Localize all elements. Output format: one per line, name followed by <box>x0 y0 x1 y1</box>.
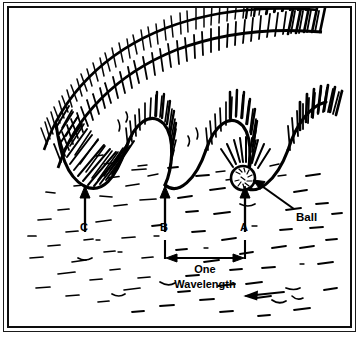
wave-diagram-figure: C B A Ball One Wavelength <box>0 0 361 339</box>
label-trough-b: B <box>160 222 168 233</box>
water-texture-dashes <box>28 167 342 316</box>
wavelength-dimension-arrow <box>166 254 244 262</box>
label-trough-c: C <box>80 222 88 233</box>
ball-callout-arrow <box>253 180 294 209</box>
label-ball: Ball <box>296 212 317 224</box>
ball-shape <box>231 166 255 190</box>
label-trough-a: A <box>240 222 248 233</box>
label-wavelength-line1: One <box>178 264 232 275</box>
current-direction-arrow <box>246 292 303 303</box>
label-wavelength-line2: Wavelength <box>170 279 240 290</box>
